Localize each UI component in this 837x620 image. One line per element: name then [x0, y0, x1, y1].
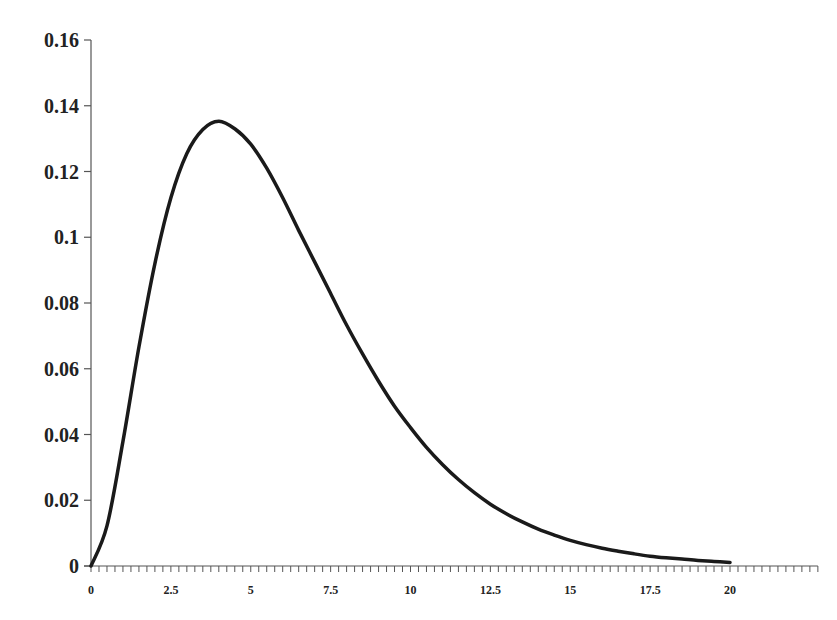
- x-tick-label: 7.5: [323, 583, 338, 597]
- x-tick-label: 20: [724, 583, 736, 597]
- x-tick-label: 0: [88, 583, 94, 597]
- y-tick-label: 0.06: [44, 358, 79, 380]
- x-tick-label: 12.5: [480, 583, 501, 597]
- y-tick-label: 0.02: [44, 489, 79, 511]
- y-tick-label: 0.04: [44, 424, 79, 446]
- y-tick-label: 0.08: [44, 292, 79, 314]
- x-tick-label: 2.5: [163, 583, 178, 597]
- y-tick-label: 0.16: [44, 29, 79, 51]
- x-tick-label: 10: [405, 583, 417, 597]
- x-tick-label: 5: [248, 583, 254, 597]
- y-tick-label: 0.12: [44, 161, 79, 183]
- x-tick-label: 17.5: [640, 583, 661, 597]
- y-tick-label: 0: [69, 555, 79, 577]
- y-tick-label: 0.1: [54, 226, 79, 248]
- density-curve: [91, 121, 730, 566]
- x-tick-label: 15: [564, 583, 576, 597]
- x-axis: 02.557.51012.51517.520: [84, 566, 818, 597]
- chart: 00.020.040.060.080.10.120.140.16 02.557.…: [0, 0, 837, 620]
- y-axis: 00.020.040.060.080.10.120.140.16: [44, 29, 91, 577]
- y-tick-label: 0.14: [44, 95, 79, 117]
